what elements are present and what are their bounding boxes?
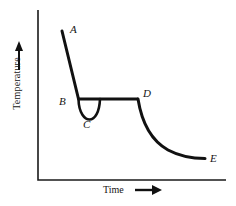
point-label-c: C [83,119,90,130]
y-axis-title: Temperature [11,44,22,124]
arrow-right-icon [135,185,162,195]
cooling-curve-figure: Temperature Time A B C D E [0,0,236,206]
x-axis-title: Time [103,184,124,195]
point-label-d: D [143,88,151,99]
point-label-b: B [59,96,66,107]
curve-segment-de [138,99,205,159]
curve-segment-supercooling-dip [79,99,101,120]
point-label-e: E [210,153,217,164]
point-label-a: A [70,24,77,35]
curve-segment-ab [62,31,79,99]
axis-lines [38,10,226,180]
cooling-curve-plot [0,0,236,206]
